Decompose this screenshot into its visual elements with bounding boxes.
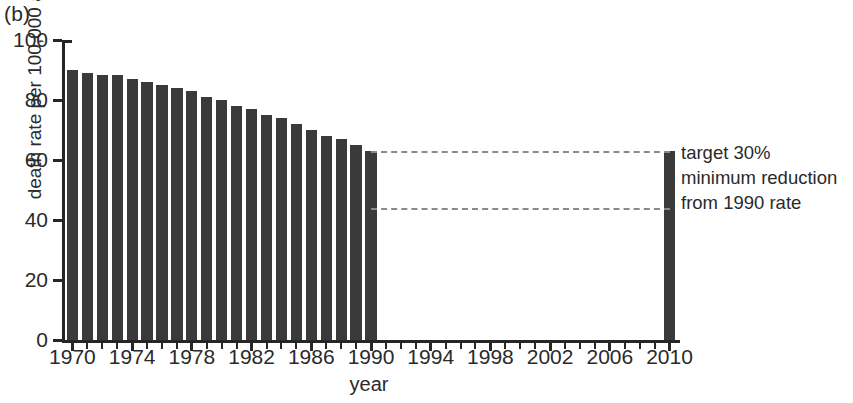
x-axis-tick — [101, 340, 103, 349]
y-axis-tick — [53, 159, 62, 162]
bar — [171, 88, 182, 340]
bar — [246, 109, 257, 340]
x-axis-tick-label: 2010 — [646, 346, 693, 368]
bar — [336, 139, 347, 340]
bar — [276, 118, 287, 340]
x-axis-title-text: year — [350, 372, 389, 396]
target-annotation-line-3: from 1990 rate — [681, 190, 851, 215]
y-axis-tick-label: 0 — [0, 329, 48, 350]
x-axis-tick — [639, 340, 641, 349]
bar — [141, 82, 152, 340]
x-axis-tick-label: 1978 — [169, 346, 216, 368]
x-axis-tick-label: 1982 — [228, 346, 275, 368]
bar — [664, 151, 675, 340]
y-axis-tick — [53, 39, 62, 42]
y-axis-tick-label: 100 — [0, 29, 48, 50]
x-axis-tick-label: 1998 — [467, 346, 514, 368]
y-axis-tick — [53, 279, 62, 282]
bar — [365, 151, 376, 340]
x-axis-tick-label: 1986 — [288, 346, 335, 368]
x-axis-tick-label: 2006 — [586, 346, 633, 368]
x-axis-tick — [460, 340, 462, 349]
y-axis-tick-label: 80 — [0, 89, 48, 110]
bar — [82, 73, 93, 340]
y-axis-tick — [53, 99, 62, 102]
bar — [127, 79, 138, 340]
bar — [201, 97, 212, 340]
y-axis-top-hook — [62, 40, 72, 43]
y-axis-tick — [53, 339, 62, 342]
x-axis-tick — [221, 340, 223, 349]
x-axis-tick-label: 1970 — [49, 346, 96, 368]
bar — [216, 100, 227, 340]
y-axis-line — [62, 40, 65, 341]
y-axis-tick — [53, 219, 62, 222]
bar — [112, 75, 123, 341]
target-annotation-line-1: target 30% — [681, 140, 851, 165]
x-axis-tick — [161, 340, 163, 349]
x-axis-tick-label: 1994 — [407, 346, 454, 368]
bar — [231, 106, 242, 340]
x-axis-tick-label: 1974 — [109, 346, 156, 368]
x-axis-tick-label: 2002 — [527, 346, 574, 368]
bar — [186, 91, 197, 340]
y-axis-tick-label: 40 — [0, 209, 48, 230]
bar — [350, 145, 361, 340]
plot-area — [62, 40, 680, 340]
target-annotation-line-2: minimum reduction — [681, 165, 851, 190]
x-axis-tick — [340, 340, 342, 349]
x-axis-tick — [280, 340, 282, 349]
bar — [156, 85, 167, 340]
y-axis-tick-label: 20 — [0, 269, 48, 290]
bar — [261, 115, 272, 340]
x-axis-title: year — [0, 372, 853, 396]
target-dashed-line — [371, 151, 670, 153]
target-dashed-line — [371, 208, 670, 210]
x-axis-tick — [579, 340, 581, 349]
x-axis-tick — [519, 340, 521, 349]
x-axis-tick-label: 1990 — [348, 346, 395, 368]
y-axis-tick-label: 60 — [0, 149, 48, 170]
bar — [67, 70, 78, 340]
bar — [321, 136, 332, 340]
bar — [306, 130, 317, 340]
x-axis-tick — [400, 340, 402, 349]
bar — [97, 75, 108, 341]
bar — [291, 124, 302, 340]
target-annotation: target 30% minimum reduction from 1990 r… — [681, 140, 851, 215]
